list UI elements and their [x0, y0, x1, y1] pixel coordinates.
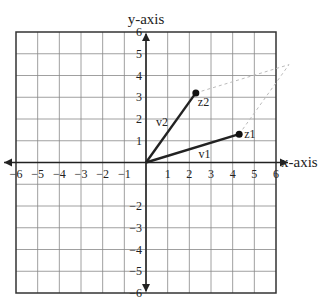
vector-plot: −6−5−4−3−2−1123456654321−2−3−4−5−6z1v1z2…	[0, 0, 333, 306]
y-tick-label: −5	[129, 264, 142, 278]
y-tick-label: −6	[129, 286, 142, 300]
y-tick-label: 2	[136, 112, 142, 126]
x-tick-label: 5	[251, 167, 257, 181]
x-tick-label: 4	[230, 167, 236, 181]
y-tick-label: −2	[129, 199, 142, 213]
y-tick-label: 1	[136, 134, 142, 148]
x-tick-label: −4	[53, 167, 66, 181]
vector-v1	[146, 134, 239, 162]
x-tick-label: −6	[10, 167, 23, 181]
x-tick-label: 6	[273, 167, 279, 181]
x-tick-label: 3	[208, 167, 214, 181]
svg-text:v1: v1	[199, 147, 211, 161]
y-tick-label: −3	[129, 221, 142, 235]
svg-text:v2: v2	[156, 115, 168, 129]
y-tick-label: 5	[136, 47, 142, 61]
svg-text:z1: z1	[244, 127, 255, 141]
svg-text:z2: z2	[198, 95, 209, 109]
x-axis-label: x-axis	[281, 154, 318, 170]
vector-v2	[146, 93, 196, 163]
x-tick-label: 1	[165, 167, 171, 181]
x-tick-label: −2	[96, 167, 109, 181]
x-tick-label: −5	[31, 167, 44, 181]
x-tick-label: 2	[186, 167, 192, 181]
x-tick-label: −3	[75, 167, 88, 181]
y-axis-label: y-axis	[128, 11, 165, 27]
y-tick-label: 3	[136, 90, 142, 104]
point-z1	[236, 131, 243, 138]
y-tick-label: 4	[136, 69, 142, 83]
y-tick-label: −4	[129, 243, 142, 257]
x-tick-label: −1	[118, 167, 131, 181]
y-tick-label: 6	[136, 25, 142, 39]
